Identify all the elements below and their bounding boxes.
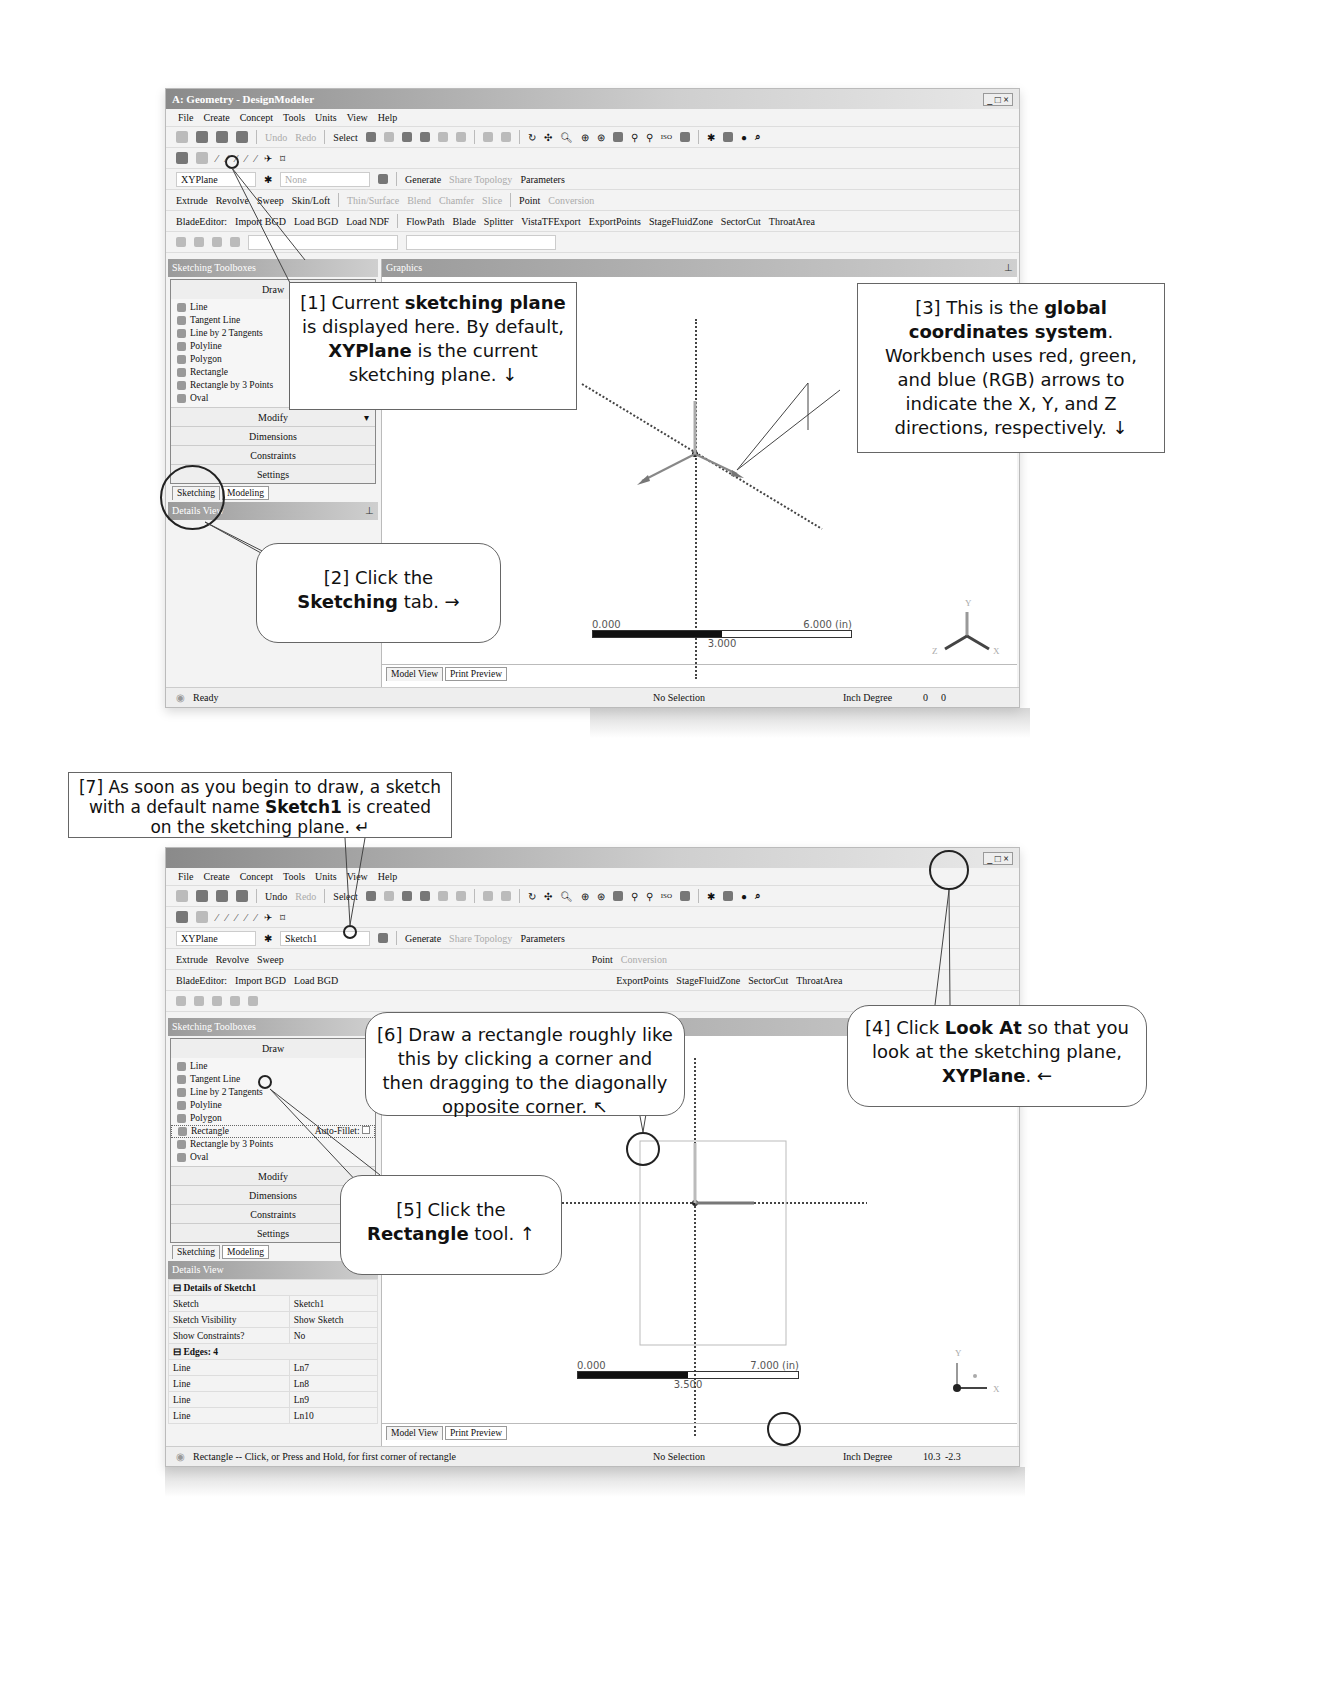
select-points-icon[interactable] (402, 132, 412, 142)
select-type-icon[interactable] (384, 891, 394, 901)
stagefluidzone-button[interactable]: StageFluidZone (649, 216, 713, 227)
select-points-icon[interactable] (402, 891, 412, 901)
tool-line[interactable]: Line (171, 1060, 375, 1073)
zoom-in-icon[interactable]: ⊕ (581, 891, 589, 902)
tool-rectangle-3-points[interactable]: Rectangle by 3 Points (171, 1138, 375, 1151)
zoom-icon[interactable]: 🔍︎ (560, 891, 573, 902)
sketch-tool-2-icon[interactable]: ⁄ (245, 153, 247, 164)
tool-icon[interactable] (230, 996, 240, 1006)
select-mode-icon[interactable] (366, 132, 376, 142)
zoom-to-fit-icon[interactable] (613, 132, 623, 142)
magnifier-2-icon[interactable]: ⚲ (646, 132, 653, 143)
load-bgd-button[interactable]: Load BGD (294, 975, 338, 986)
magnifier-2-icon[interactable]: ⚲ (646, 891, 653, 902)
share-topology-button[interactable]: Share Topology (449, 174, 512, 185)
pan-icon[interactable]: ✣ (544, 132, 552, 143)
sketch-tool-3-icon[interactable]: ⁄ (255, 912, 257, 923)
menu-units[interactable]: Units (315, 871, 337, 882)
throatarea-button[interactable]: ThroatArea (796, 975, 842, 986)
blade-combo-2[interactable] (406, 235, 556, 250)
import-bgd-button[interactable]: Import BGD (235, 975, 286, 986)
new-plane-icon[interactable]: ✱ (264, 933, 272, 944)
auto-fillet-option[interactable]: Auto-Fillet: (315, 1125, 370, 1138)
select-bodies-icon[interactable] (456, 132, 466, 142)
select-faces-icon[interactable] (438, 132, 448, 142)
tool-icon[interactable] (194, 996, 204, 1006)
throatarea-button[interactable]: ThroatArea (769, 216, 815, 227)
menu-units[interactable]: Units (315, 112, 337, 123)
tool-icon[interactable] (194, 237, 204, 247)
menu-tools[interactable]: Tools (283, 871, 305, 882)
tool-polygon[interactable]: Polygon (171, 1112, 375, 1125)
menu-help[interactable]: Help (378, 112, 397, 123)
menu-create[interactable]: Create (204, 112, 230, 123)
select-mode-icon[interactable] (366, 891, 376, 901)
new-icon[interactable] (176, 131, 188, 143)
table-row[interactable]: Show Constraints?No (169, 1328, 378, 1344)
blend-button[interactable]: Blend (407, 195, 431, 206)
select-faces-icon[interactable] (438, 891, 448, 901)
generate-button[interactable]: Generate (405, 174, 441, 185)
parameters-button[interactable]: Parameters (520, 174, 564, 185)
tool-icon[interactable] (176, 996, 186, 1006)
box-zoom-icon[interactable]: ⊛ (597, 891, 605, 902)
grid-2-icon[interactable] (196, 911, 208, 923)
save-as-icon[interactable] (216, 131, 228, 143)
collapse-icon[interactable]: ⊟ (173, 1347, 183, 1357)
skin-loft-button[interactable]: Skin/Loft (292, 195, 330, 206)
tool-icon[interactable] (230, 237, 240, 247)
new-sketch-icon[interactable]: ⁄ (226, 912, 228, 923)
new-plane-icon[interactable]: ✱ (264, 174, 272, 185)
tool-oval[interactable]: Oval (171, 1151, 375, 1164)
box-zoom-icon[interactable]: ⊛ (597, 132, 605, 143)
tool-icon[interactable] (248, 996, 258, 1006)
flowpath-button[interactable]: FlowPath (406, 216, 444, 227)
menu-concept[interactable]: Concept (240, 871, 273, 882)
zoom-icon[interactable]: 🔍︎ (560, 132, 573, 143)
rotate-icon[interactable]: ↻ (528, 132, 536, 143)
constraints-section[interactable]: Constraints (171, 445, 375, 464)
draw-section[interactable]: Draw (171, 1039, 375, 1058)
stagefluidzone-button[interactable]: StageFluidZone (676, 975, 740, 986)
zoom-in-icon[interactable]: ⊕ (581, 132, 589, 143)
select-edges-icon[interactable] (420, 132, 430, 142)
display-plane-icon[interactable] (680, 132, 690, 142)
sweep-button[interactable]: Sweep (257, 195, 284, 206)
generate-button[interactable]: Generate (405, 933, 441, 944)
save-as-icon[interactable] (216, 890, 228, 902)
tool-rectangle[interactable]: RectangleAuto-Fillet: (171, 1125, 375, 1138)
sketch-tool-2-icon[interactable]: ⁄ (245, 912, 247, 923)
menu-concept[interactable]: Concept (240, 112, 273, 123)
details-group[interactable]: ⊟ Edges: 4 (169, 1344, 378, 1360)
thin-surface-button[interactable]: Thin/Surface (347, 195, 399, 206)
undo-button[interactable]: Undo (265, 132, 287, 143)
display-plane-icon[interactable] (680, 891, 690, 901)
slice-button[interactable]: Slice (482, 195, 502, 206)
display-axes-icon[interactable]: ✱ (707, 891, 715, 902)
tab-model-view[interactable]: Model View (386, 1426, 443, 1440)
display-point-icon[interactable]: ● (741, 891, 747, 902)
tab-modeling[interactable]: Modeling (222, 1245, 269, 1259)
display-axes-icon[interactable]: ✱ (707, 132, 715, 143)
menu-help[interactable]: Help (378, 871, 397, 882)
vistatfexport-button[interactable]: VistaTFExport (521, 216, 580, 227)
share-topology-button[interactable]: Share Topology (449, 933, 512, 944)
tool-tangent-line[interactable]: Tangent Line (171, 1073, 375, 1086)
display-point-icon[interactable]: ● (741, 132, 747, 143)
menu-view[interactable]: View (347, 112, 368, 123)
sectorcut-button[interactable]: SectorCut (748, 975, 788, 986)
tool-icon[interactable] (212, 996, 222, 1006)
extrude-button[interactable]: Extrude (176, 195, 208, 206)
extend-icon[interactable] (483, 132, 493, 142)
menu-file[interactable]: File (178, 871, 194, 882)
auto-fillet-checkbox[interactable] (362, 1126, 370, 1134)
menu-tools[interactable]: Tools (283, 112, 305, 123)
exportpoints-button[interactable]: ExportPoints (616, 975, 668, 986)
new-sketch-icon[interactable] (378, 174, 388, 184)
menu-file[interactable]: File (178, 112, 194, 123)
conversion-button[interactable]: Conversion (548, 195, 594, 206)
tool-polyline[interactable]: Polyline (171, 1099, 375, 1112)
pan-icon[interactable]: ✣ (544, 891, 552, 902)
sketch-tool-3-icon[interactable]: ⁄ (255, 153, 257, 164)
magnifier-icon[interactable]: ⚲ (631, 891, 638, 902)
